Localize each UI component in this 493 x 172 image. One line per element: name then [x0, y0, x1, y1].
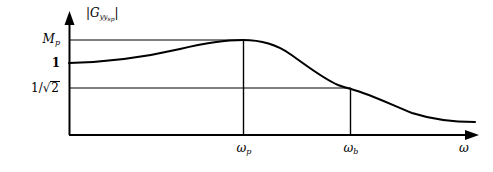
y-axis-title-sub-main: yy [100, 13, 108, 21]
y-axis [65, 11, 75, 135]
x-tick-wp-symbol: ω [237, 141, 247, 155]
x-axis-title: ω [452, 142, 476, 154]
y-tick-mp-subscript: p [55, 38, 60, 47]
x-tick-wb-subscript: b [353, 147, 358, 156]
y-axis-title: |Gyysp| [86, 7, 119, 22]
x-tick-wp-subscript: p [246, 147, 251, 156]
sqrt-group: √2 [43, 80, 60, 94]
x-axis [69, 130, 479, 140]
x-tick-wb-symbol: ω [344, 141, 354, 155]
x-tick-label-wb: ωb [332, 142, 370, 156]
y-tick-label-one: 1 [8, 57, 60, 69]
frequency-response-figure: |Gyysp| Mp 1 1/√2 ωp ωb ω [0, 0, 493, 172]
magnitude-response-curve [69, 40, 475, 122]
y-tick-mp-symbol: M [43, 32, 55, 46]
sqrt-radicand: 2 [50, 81, 60, 94]
y-tick-invsqrt2-numerator: 1/ [31, 81, 43, 95]
y-tick-label-mp: Mp [8, 33, 60, 47]
y-axis-title-subscript: yysp [100, 13, 115, 21]
y-axis-title-bar-right: | [114, 6, 118, 20]
sqrt-radical: √ [43, 81, 51, 95]
y-axis-title-symbol: G [90, 6, 100, 20]
x-tick-label-wp: ωp [225, 142, 263, 156]
y-tick-label-invsqrt2: 1/√2 [4, 80, 60, 94]
